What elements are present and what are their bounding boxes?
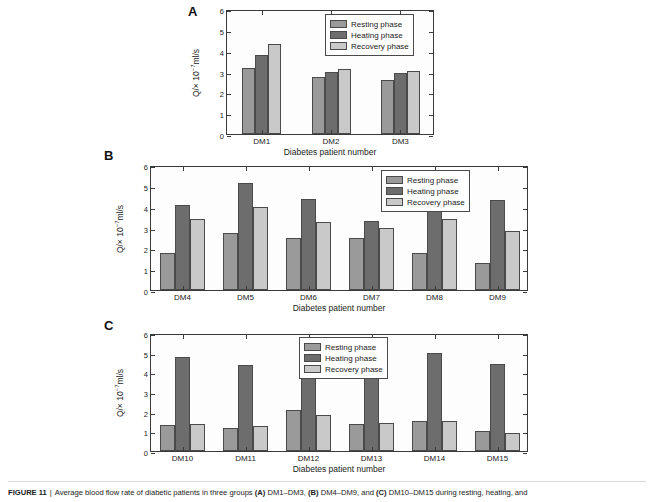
y-tick-mark [523, 188, 527, 189]
y-tick-mark [151, 335, 155, 336]
y-tick-mark [523, 167, 527, 168]
bar-dm8-heating [427, 205, 442, 290]
x-tick-mark [372, 167, 373, 171]
bar-dm10-heating [175, 357, 190, 451]
x-tick-label-dm8: DM8 [426, 293, 443, 302]
y-tick-label: 1 [144, 267, 148, 276]
x-tick-label-dm13: DM13 [361, 454, 382, 463]
y-tick-mark [523, 209, 527, 210]
panel-b-letter: B [104, 148, 114, 163]
bar-dm2-recovery [338, 69, 351, 134]
y-tick-mark [523, 414, 527, 415]
y-tick-label: 6 [144, 331, 148, 340]
x-tick-mark [183, 447, 184, 451]
legend-label: Resting phase [407, 176, 458, 185]
bar-dm5-recovery [253, 207, 268, 290]
y-tick-label: 4 [220, 48, 224, 57]
bar-dm7-recovery [379, 228, 394, 290]
y-tick-mark [429, 115, 433, 116]
y-tick-label: 5 [144, 183, 148, 192]
x-tick-label-dm1: DM1 [253, 137, 270, 146]
figure-label: FIGURE 11 [8, 488, 47, 497]
legend-item: Recovery phase [386, 197, 465, 207]
y-tick-mark [523, 453, 527, 454]
legend-swatch-icon [386, 198, 403, 206]
legend-label: Recovery phase [325, 365, 383, 374]
y-tick-mark [523, 250, 527, 251]
x-tick-mark [183, 286, 184, 290]
x-tick-label-dm2: DM2 [323, 137, 340, 146]
y-tick-mark [523, 230, 527, 231]
y-tick-mark [523, 355, 527, 356]
y-tick-mark [227, 94, 231, 95]
legend-item: Heating phase [330, 30, 409, 40]
y-tick-label: 4 [144, 204, 148, 213]
x-tick-label-dm14: DM14 [424, 454, 445, 463]
caption-tag-a: (A) [255, 488, 266, 497]
bar-dm12-resting [286, 410, 301, 451]
caption-text: Average blood flow rate of diabetic pati… [55, 488, 253, 497]
x-tick-mark [309, 447, 310, 451]
y-tick-label: 0 [220, 132, 224, 141]
y-tick-mark [151, 271, 155, 272]
legend-swatch-icon [304, 354, 321, 362]
bar-dm14-recovery [442, 421, 457, 451]
y-tick-mark [429, 136, 433, 137]
y-axis-title: Q/× 10−7ml/s [190, 48, 201, 96]
bar-dm3-heating [394, 73, 407, 134]
x-tick-mark [498, 447, 499, 451]
y-axis-title: Q/× 10−7ml/s [114, 369, 125, 417]
bar-dm1-resting [242, 68, 255, 134]
legend-item: Resting phase [330, 19, 409, 29]
x-tick-label-dm3: DM3 [392, 137, 409, 146]
y-tick-mark [429, 11, 433, 12]
x-tick-mark [246, 167, 247, 171]
bar-dm9-recovery [505, 231, 520, 290]
caption-group-c: DM10–DM15 during resting, heating, and [389, 488, 528, 497]
y-tick-mark [227, 74, 231, 75]
y-tick-label: 2 [220, 90, 224, 99]
bar-dm8-resting [412, 253, 427, 290]
bar-dm3-resting [381, 80, 394, 134]
bar-dm4-heating [175, 205, 190, 290]
x-tick-label-dm15: DM15 [487, 454, 508, 463]
y-tick-mark [227, 115, 231, 116]
y-tick-mark [151, 394, 155, 395]
y-tick-mark [429, 94, 433, 95]
legend-item: Resting phase [386, 175, 465, 185]
y-tick-mark [523, 374, 527, 375]
figure-caption: FIGURE 11|Average blood flow rate of dia… [8, 487, 646, 498]
bar-dm13-heating [364, 375, 379, 451]
y-tick-mark [429, 74, 433, 75]
legend-item: Resting phase [304, 342, 383, 352]
bar-dm11-heating [238, 365, 253, 451]
legend-swatch-icon [330, 42, 347, 50]
bar-dm14-resting [412, 421, 427, 451]
x-tick-mark [309, 167, 310, 171]
bar-dm14-heating [427, 353, 442, 451]
panel-a-letter: A [188, 4, 198, 19]
y-tick-mark [523, 271, 527, 272]
legend-label: Heating phase [325, 354, 377, 363]
y-tick-label: 5 [220, 27, 224, 36]
x-tick-mark [498, 335, 499, 339]
bar-dm15-resting [475, 431, 490, 451]
y-tick-mark [151, 250, 155, 251]
x-axis-title: Diabetes patient number [284, 147, 377, 157]
legend-swatch-icon [386, 176, 403, 184]
chart-legend: Resting phaseHeating phaseRecovery phase [299, 337, 388, 379]
y-tick-mark [523, 433, 527, 434]
x-tick-mark [246, 286, 247, 290]
x-tick-mark [435, 335, 436, 339]
legend-swatch-icon [386, 187, 403, 195]
caption-divider [8, 481, 646, 482]
x-tick-mark [262, 11, 263, 15]
x-tick-mark [498, 167, 499, 171]
chart-panel-b: 0123456Q/× 10−7ml/sDM4DM5DM6DM7DM8DM9Dia… [150, 166, 528, 291]
y-tick-mark [151, 414, 155, 415]
bar-dm6-resting [286, 238, 301, 290]
x-tick-mark [331, 130, 332, 134]
bar-dm12-recovery [316, 415, 331, 451]
x-axis-title: Diabetes patient number [293, 464, 386, 474]
x-tick-mark [400, 130, 401, 134]
